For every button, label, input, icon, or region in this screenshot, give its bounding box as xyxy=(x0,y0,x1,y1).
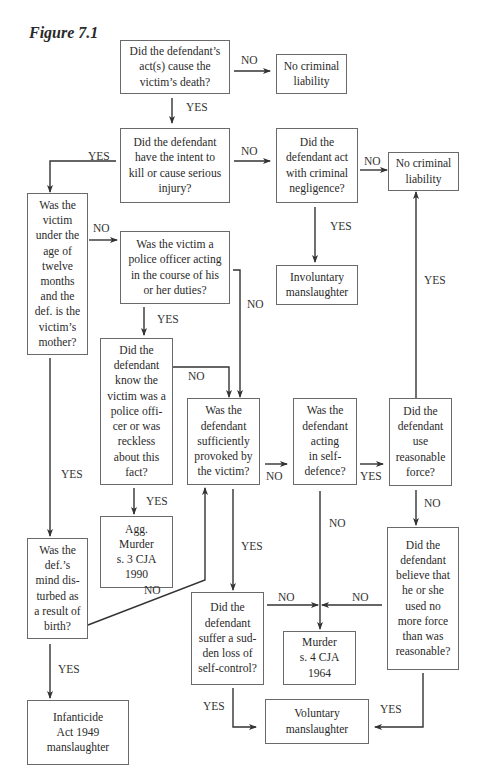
label-police-yes: YES xyxy=(157,313,179,325)
node-intent: Did the defendant have the intent to kil… xyxy=(120,128,230,203)
label-force-yes: YES xyxy=(424,274,446,286)
label-selfdef-no: NO xyxy=(329,517,346,529)
node-victim-police-officer: Was the victim a police officer acting i… xyxy=(120,231,230,304)
node-knew-police-officer: Did the defendant know the victim was a … xyxy=(100,338,173,485)
node-sufficiently-provoked: Was the defendant sufficiently provoked … xyxy=(187,398,260,485)
label-intent-yes: YES xyxy=(88,150,110,162)
label-control-yes: YES xyxy=(203,700,225,712)
label-selfdef-yes: YES xyxy=(360,470,382,482)
node-believe-no-more-force: Did the defendant believe that he or she… xyxy=(387,527,459,670)
label-force-no: NO xyxy=(424,497,441,509)
label-cause-yes: YES xyxy=(186,101,208,113)
label-believe-no: NO xyxy=(352,591,369,603)
node-voluntary-manslaughter: Voluntary manslaughter xyxy=(265,699,369,744)
node-reasonable-force: Did the defendant use reasonable force? xyxy=(389,398,452,486)
label-believe-yes: YES xyxy=(380,703,402,715)
node-self-defence: Was the defendant acting in self- defenc… xyxy=(293,398,357,485)
label-intent-no: NO xyxy=(241,145,258,157)
label-provoked-no: NO xyxy=(266,470,283,482)
node-infanticide: Infanticide Act 1949 manslaughter xyxy=(27,700,129,765)
label-knew-yes: YES xyxy=(146,495,168,507)
node-no-criminal-liability-1: No criminal liability xyxy=(276,54,347,94)
label-knew-no: NO xyxy=(188,370,205,382)
node-sudden-loss-of-control: Did the defendant suffer a sud- den loss… xyxy=(191,592,264,685)
node-criminal-negligence: Did the defendant act with criminal negl… xyxy=(276,128,358,203)
node-aggravated-murder: Agg. Murder s. 3 CJA 1990 xyxy=(100,516,173,588)
node-cause-death: Did the defendant’s act(s) cause the vic… xyxy=(120,40,230,94)
label-control-no: NO xyxy=(278,591,295,603)
label-mind-yes: YES xyxy=(58,663,80,675)
label-police-no: NO xyxy=(247,298,264,310)
label-negligence-no: NO xyxy=(364,155,381,167)
label-negligence-yes: YES xyxy=(330,220,352,232)
node-no-criminal-liability-2: No criminal liability xyxy=(388,152,459,191)
node-murder: Murder s. 4 CJA 1964 xyxy=(283,631,356,685)
node-mind-disturbed: Was the def.’s mind dis- turbed as a res… xyxy=(27,538,88,639)
label-under12-no: NO xyxy=(93,222,110,234)
label-under12-yes: YES xyxy=(61,468,83,480)
node-involuntary-manslaughter: Involuntary manslaughter xyxy=(276,265,358,305)
node-victim-under-twelve-months: Was the victim under the age of twelve m… xyxy=(27,193,88,355)
label-mind-no: NO xyxy=(144,584,161,596)
label-cause-no: NO xyxy=(241,54,258,66)
label-provoked-yes: YES xyxy=(241,540,263,552)
